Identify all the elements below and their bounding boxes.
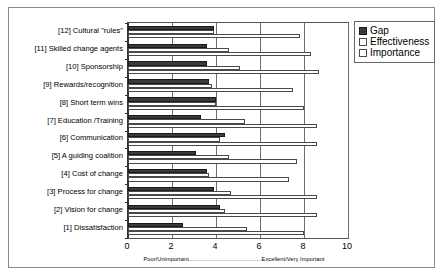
legend-label: Effectiveness bbox=[370, 37, 429, 47]
category-label: [7] Education /Training bbox=[47, 117, 123, 125]
bar-importance bbox=[128, 124, 317, 128]
category-tick bbox=[125, 184, 128, 185]
legend-item[interactable]: Effectiveness bbox=[359, 37, 429, 47]
legend-label: Gap bbox=[370, 26, 389, 36]
category-label: [1] Dissatisfaction bbox=[63, 224, 123, 232]
gridline-10 bbox=[348, 23, 349, 238]
value-axis-caption: Poor/Unimportant........................… bbox=[109, 256, 359, 262]
x-tick-label: 2 bbox=[168, 242, 173, 251]
bar-importance bbox=[128, 142, 317, 146]
legend-item[interactable]: Gap bbox=[359, 26, 429, 36]
legend-swatch-icon bbox=[359, 27, 367, 35]
plot-area bbox=[127, 22, 349, 239]
category-tick bbox=[125, 238, 128, 239]
legend-label: Importance bbox=[370, 48, 420, 58]
category-label: [6] Communication bbox=[60, 134, 123, 142]
category-tick bbox=[125, 77, 128, 78]
category-axis-labels: [12] Cultural "rules"[11] Skilled change… bbox=[19, 22, 125, 239]
bar-importance bbox=[128, 213, 317, 217]
bar-importance bbox=[128, 195, 317, 199]
category-label: [10] Sponsorship bbox=[66, 63, 123, 71]
x-tick-label: 4 bbox=[212, 242, 217, 251]
bar-importance bbox=[128, 159, 297, 163]
category-label: [11] Skilled change agents bbox=[34, 45, 123, 53]
category-label: [9] Rewards/recognition bbox=[43, 81, 123, 89]
chart-frame: [12] Cultural "rules"[11] Skilled change… bbox=[8, 7, 435, 268]
category-tick bbox=[125, 95, 128, 96]
value-axis-labels: 0246810 bbox=[127, 242, 349, 256]
category-tick bbox=[125, 23, 128, 24]
category-tick bbox=[125, 59, 128, 60]
category-label: [5] A guiding coalition bbox=[52, 152, 123, 160]
chart-legend: GapEffectivenessImportance bbox=[354, 21, 435, 63]
category-tick bbox=[125, 166, 128, 167]
bar-importance bbox=[128, 34, 300, 38]
category-label: [8] Short term wins bbox=[60, 99, 123, 107]
bar-importance bbox=[128, 231, 304, 235]
bar-importance bbox=[128, 177, 289, 181]
legend-swatch-icon bbox=[359, 49, 367, 57]
category-label: [2] Vision for change bbox=[54, 206, 123, 214]
x-tick-label: 10 bbox=[342, 242, 352, 251]
legend-item[interactable]: Importance bbox=[359, 48, 429, 58]
legend-swatch-icon bbox=[359, 38, 367, 46]
bar-importance bbox=[128, 88, 293, 92]
category-tick bbox=[125, 113, 128, 114]
category-tick bbox=[125, 148, 128, 149]
category-label: [3] Process for change bbox=[47, 188, 123, 196]
category-tick bbox=[125, 220, 128, 221]
x-tick-label: 0 bbox=[124, 242, 129, 251]
x-tick-label: 8 bbox=[300, 242, 305, 251]
category-tick bbox=[125, 41, 128, 42]
category-tick bbox=[125, 131, 128, 132]
bar-importance bbox=[128, 106, 304, 110]
bar-importance bbox=[128, 70, 319, 74]
bar-importance bbox=[128, 52, 311, 56]
category-label: [12] Cultural "rules" bbox=[58, 27, 123, 35]
x-tick-label: 6 bbox=[256, 242, 261, 251]
category-tick bbox=[125, 202, 128, 203]
category-label: [4] Cost of change bbox=[61, 170, 123, 178]
